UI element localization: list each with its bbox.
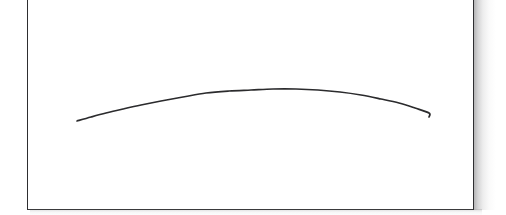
figure-canvas <box>0 0 506 215</box>
curve-plot-area <box>28 0 475 210</box>
figure-frame <box>27 0 474 210</box>
arc-curve-path <box>77 89 430 121</box>
arc-curve-svg <box>28 0 475 210</box>
frame-shadow-right <box>474 0 496 210</box>
